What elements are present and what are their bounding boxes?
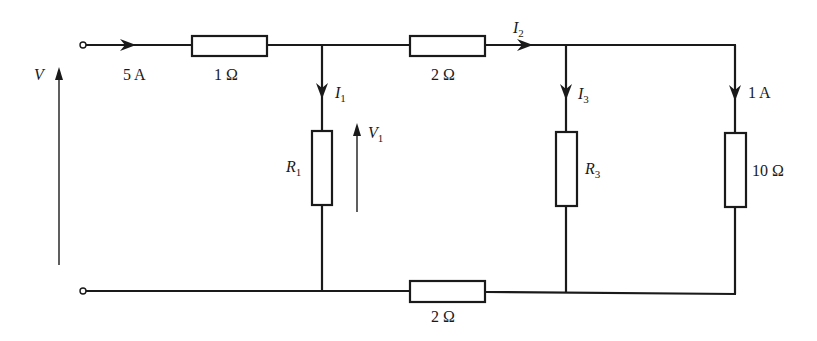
r3-branch [556,45,577,292]
resistor-10-ohm [725,133,746,207]
input-terminal-bottom [80,288,86,294]
right-branch [725,45,746,294]
label-5a: 5 A [123,66,146,83]
label-r3: R3 [584,160,601,180]
resistor-r1 [312,131,332,205]
label-i1: I1 [334,84,346,104]
resistor-r3 [556,132,577,206]
voltage-v1-arrow [353,123,361,212]
label-1a: 1 A [748,84,771,101]
resistor-2-ohm-bottom [410,281,485,302]
label-1-ohm: 1 Ω [214,66,238,83]
resistor-2-ohm-top [410,36,485,56]
label-i2: I2 [512,19,524,39]
label-v1: V1 [368,124,383,144]
input-terminal-top [80,42,86,48]
resistor-1-ohm [192,36,267,56]
label-2-ohm-top: 2 Ω [431,66,455,83]
arrow-up-icon [55,67,63,80]
label-10-ohm: 10 Ω [752,162,784,179]
arrow-up-icon [353,123,361,136]
label-2-ohm-bottom: 2 Ω [431,308,455,325]
circuit-diagram: V 5 A 1 Ω 2 Ω 2 Ω 10 Ω 1 A R1 R3 I1 I2 I… [0,0,817,341]
voltage-v-arrow [55,67,63,265]
label-r1: R1 [285,158,301,178]
r1-branch [312,45,332,291]
label-i3: I3 [577,85,589,105]
label-v: V [34,66,46,83]
